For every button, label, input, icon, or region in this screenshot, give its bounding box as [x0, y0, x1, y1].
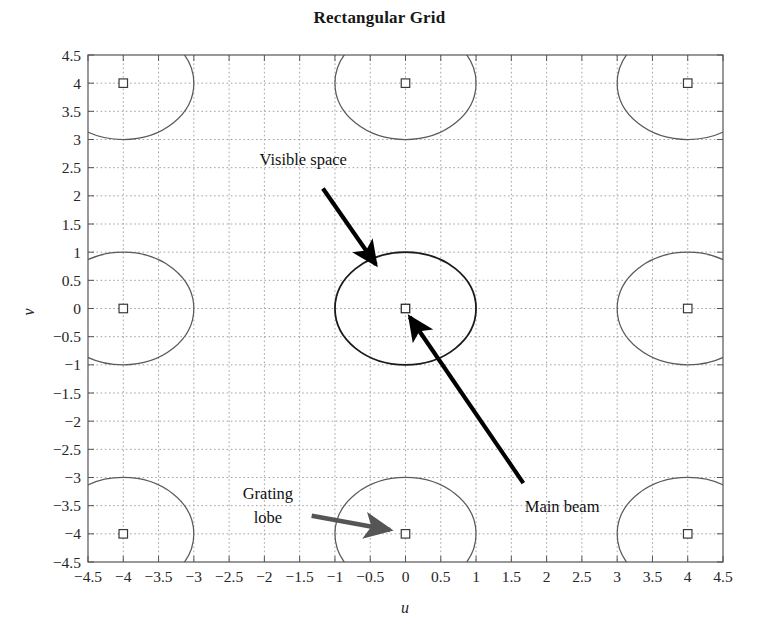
x-tick-label: 1 [472, 568, 480, 585]
y-tick-label: −2.5 [53, 441, 81, 458]
grating-lobe-marker [683, 530, 692, 539]
x-tick-label: −4 [115, 568, 132, 585]
x-tick-labels: −4.5−4−3.5−3−2.5−2−1.5−1−0.500.511.522.5… [74, 568, 733, 585]
x-tick-label: 1.5 [502, 568, 522, 585]
x-tick-label: 2.5 [572, 568, 592, 585]
rectangular-grid-plot: −4.5−4−3.5−3−2.5−2−1.5−1−0.500.511.522.5… [0, 0, 759, 636]
x-tick-label: −1.5 [286, 568, 314, 585]
grating-lobe-marker [401, 530, 410, 539]
x-tick-label: −3.5 [144, 568, 172, 585]
grating-lobe-marker [683, 79, 692, 88]
y-tick-labels: 4.543.532.521.510.50−0.5−1−1.5−2−2.5−3−3… [53, 47, 81, 571]
grating-lobe-marker [119, 530, 128, 539]
x-tick-label: 4.5 [713, 568, 733, 585]
y-tick-label: −1.5 [53, 385, 81, 402]
x-tick-label: 3.5 [643, 568, 663, 585]
x-tick-label: 4 [684, 568, 692, 585]
y-tick-label: −0.5 [53, 328, 81, 345]
y-tick-label: −3.5 [53, 497, 81, 514]
x-tick-label: 2 [543, 568, 551, 585]
annotation-grating-lobe-line2: lobe [254, 508, 282, 527]
y-tick-label: −4 [65, 525, 82, 542]
y-tick-label: −1 [65, 356, 82, 373]
annotation-visible-space: Visible space [259, 150, 346, 169]
grating-lobe-marker [119, 304, 128, 313]
x-tick-label: −4.5 [74, 568, 102, 585]
y-tick-label: 3 [73, 131, 81, 148]
x-tick-label: −0.5 [356, 568, 384, 585]
y-tick-label: 1 [73, 244, 81, 261]
y-tick-label: 4 [73, 75, 81, 92]
x-tick-label: −2.5 [215, 568, 243, 585]
y-tick-label: 3.5 [62, 103, 82, 120]
annotation-grating-lobe-line1: Grating [243, 484, 293, 503]
grating-lobe-marker [119, 79, 128, 88]
y-tick-label: −3 [65, 469, 82, 486]
y-tick-label: 1.5 [62, 216, 82, 233]
x-tick-label: 3 [613, 568, 621, 585]
y-tick-label: 0 [73, 300, 81, 317]
y-tick-label: −4.5 [53, 554, 81, 571]
annotation-main-beam: Main beam [525, 497, 600, 516]
y-tick-label: 0.5 [62, 272, 82, 289]
y-tick-label: 2.5 [62, 159, 82, 176]
grating-lobe-marker [401, 79, 410, 88]
x-tick-label: −3 [186, 568, 203, 585]
main-beam-marker [401, 304, 410, 313]
x-tick-label: 0 [402, 568, 410, 585]
x-axis-label: u [401, 599, 409, 616]
y-axis-label: v [20, 308, 37, 316]
x-tick-label: −2 [256, 568, 273, 585]
y-tick-label: 2 [73, 187, 81, 204]
x-tick-label: −1 [327, 568, 344, 585]
figure-canvas: Rectangular Grid −4.5−4−3.5−3−2.5−2−1.5−… [0, 0, 759, 636]
x-tick-label: 0.5 [431, 568, 451, 585]
grating-lobe-marker [683, 304, 692, 313]
y-tick-label: 4.5 [62, 47, 82, 64]
y-tick-label: −2 [65, 413, 82, 430]
